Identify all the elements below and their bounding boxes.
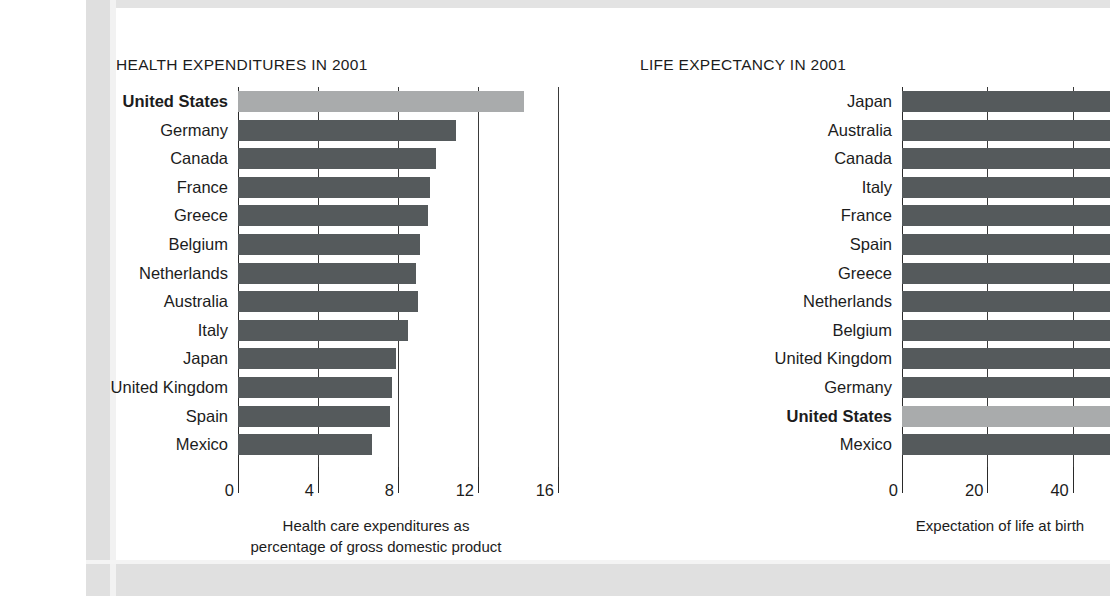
- x-axis-caption: Health care expenditures aspercentage of…: [176, 515, 576, 557]
- bar: [902, 234, 1110, 255]
- bar: [238, 91, 524, 112]
- bar: [238, 205, 428, 226]
- x-axis-tick: [558, 467, 559, 493]
- category-label: Netherlands: [139, 259, 228, 288]
- x-axis-tick-label: 40: [1027, 481, 1069, 500]
- category-label: France: [177, 173, 228, 202]
- category-label: Mexico: [176, 430, 228, 459]
- category-label: Greece: [174, 201, 228, 230]
- chart-row: France: [640, 201, 1110, 230]
- category-label: United Kingdom: [111, 373, 228, 402]
- chart-row: Canada: [116, 144, 616, 173]
- category-label: Spain: [186, 402, 228, 431]
- category-label: United Kingdom: [775, 344, 892, 373]
- chart-row: Spain: [116, 402, 616, 431]
- chart-row: Belgium: [640, 316, 1110, 345]
- bar: [238, 320, 408, 341]
- category-label: Belgium: [832, 316, 892, 345]
- bar: [902, 434, 1110, 455]
- chart-row: United Kingdom: [640, 344, 1110, 373]
- category-label: Greece: [838, 259, 892, 288]
- category-label: Australia: [828, 116, 892, 145]
- category-label: Canada: [834, 144, 892, 173]
- bar: [238, 406, 390, 427]
- category-label: Belgium: [168, 230, 228, 259]
- category-label: Germany: [160, 116, 228, 145]
- chart-row: Netherlands: [116, 259, 616, 288]
- bar: [238, 148, 436, 169]
- chart-row: Greece: [116, 201, 616, 230]
- category-label: Netherlands: [803, 287, 892, 316]
- x-axis-line: [902, 466, 1110, 467]
- chart-row: Germany: [640, 373, 1110, 402]
- bar: [238, 291, 418, 312]
- x-axis-tick: [238, 467, 239, 493]
- x-axis-tick-label: 20: [941, 481, 983, 500]
- category-label: Japan: [183, 344, 228, 373]
- bar: [902, 377, 1110, 398]
- chart-row: Canada: [640, 144, 1110, 173]
- category-label: Australia: [164, 287, 228, 316]
- chart-row: Italy: [116, 316, 616, 345]
- chart-row: Mexico: [640, 430, 1110, 459]
- frame-inner-edge-bottom: [86, 560, 1110, 564]
- chart-title-health-expenditures: HEALTH EXPENDITURES IN 2001: [116, 56, 368, 74]
- x-axis-tick-label: 16: [512, 481, 554, 500]
- x-axis-tick-label: 8: [352, 481, 394, 500]
- chart-row: Greece: [640, 259, 1110, 288]
- x-axis-tick: [398, 467, 399, 493]
- plot-area-life-expectancy: JapanAustraliaCanadaItalyFranceSpainGree…: [640, 87, 1110, 467]
- x-axis-tick: [478, 467, 479, 493]
- x-axis-caption-line-2: percentage of gross domestic product: [176, 536, 576, 557]
- category-label: Italy: [862, 173, 892, 202]
- x-axis-tick-label: 12: [432, 481, 474, 500]
- category-label: Mexico: [840, 430, 892, 459]
- category-label: Italy: [198, 316, 228, 345]
- chart-row: Netherlands: [640, 287, 1110, 316]
- chart-row: Italy: [640, 173, 1110, 202]
- bar: [902, 263, 1110, 284]
- bar: [238, 234, 420, 255]
- x-axis-caption-line-1: Health care expenditures as: [176, 515, 576, 536]
- bar: [902, 120, 1110, 141]
- bar: [902, 320, 1110, 341]
- category-label: Japan: [847, 87, 892, 116]
- plot-area-health-expenditures: United StatesGermanyCanadaFranceGreeceBe…: [116, 87, 616, 467]
- bar: [902, 205, 1110, 226]
- category-label: France: [841, 201, 892, 230]
- x-axis-tick: [318, 467, 319, 493]
- x-axis-tick: [902, 467, 903, 493]
- bar: [902, 148, 1110, 169]
- chart-row: Belgium: [116, 230, 616, 259]
- x-axis-tick: [1073, 467, 1074, 493]
- bar: [238, 177, 430, 198]
- chart-row: Japan: [640, 87, 1110, 116]
- bar: [902, 406, 1110, 427]
- x-axis-tick-label: 4: [272, 481, 314, 500]
- bar: [902, 291, 1110, 312]
- bar: [238, 377, 392, 398]
- x-axis-tick-label: 0: [192, 481, 234, 500]
- x-axis-caption: Expectation of life at birth: [830, 515, 1110, 536]
- bar: [902, 348, 1110, 369]
- chart-row: Germany: [116, 116, 616, 145]
- chart-row: Australia: [116, 287, 616, 316]
- category-label: Spain: [850, 230, 892, 259]
- chart-row: France: [116, 173, 616, 202]
- category-label: Germany: [824, 373, 892, 402]
- chart-row: Australia: [640, 116, 1110, 145]
- frame-band-bottom: [86, 560, 1110, 596]
- content-panel: HEALTH EXPENDITURES IN 2001 United State…: [116, 8, 1110, 560]
- chart-row: United States: [640, 402, 1110, 431]
- chart-row: United States: [116, 87, 616, 116]
- chart-row: Japan: [116, 344, 616, 373]
- x-axis-tick: [987, 467, 988, 493]
- frame-band-top: [86, 0, 1110, 8]
- category-label: United States: [787, 402, 892, 431]
- bar: [238, 263, 416, 284]
- bar: [238, 434, 372, 455]
- chart-title-life-expectancy: LIFE EXPECTANCY IN 2001: [640, 56, 846, 74]
- bar: [238, 120, 456, 141]
- bar: [238, 348, 396, 369]
- chart-row: Spain: [640, 230, 1110, 259]
